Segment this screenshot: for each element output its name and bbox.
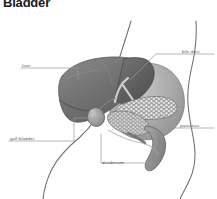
label-bile-duct: bile duct xyxy=(182,49,200,54)
label-pancreas: pancreas xyxy=(180,123,199,128)
anatomy-figure: Bladder xyxy=(0,0,217,199)
label-duodenum: duodenum xyxy=(102,160,124,165)
anatomy-illustration xyxy=(0,0,217,199)
label-gall-bladder: gall bladder xyxy=(10,136,35,141)
organ-mass xyxy=(59,57,185,171)
label-liver: liver xyxy=(22,63,31,68)
